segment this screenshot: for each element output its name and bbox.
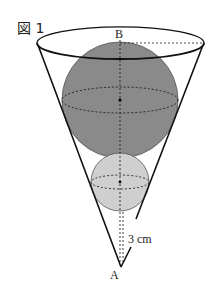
cone-with-spheres-diagram: 図 1 B A 3 cm bbox=[0, 0, 221, 295]
label-b: B bbox=[115, 27, 123, 41]
figure-title: 図 1 bbox=[17, 20, 44, 36]
cone-right-side-lower bbox=[121, 247, 131, 267]
label-a: A bbox=[110, 268, 119, 282]
label-distance: 3 cm bbox=[128, 232, 152, 246]
